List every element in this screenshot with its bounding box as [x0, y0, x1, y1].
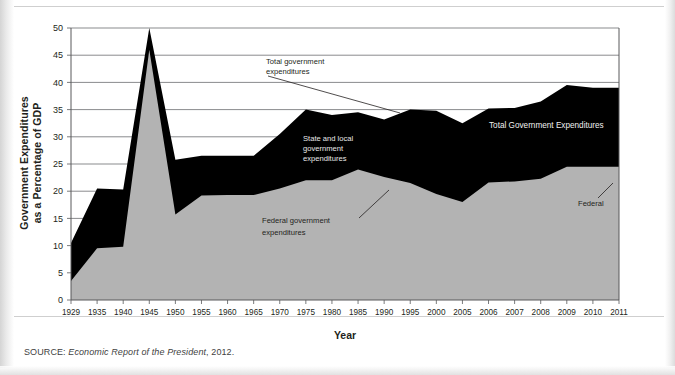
source-note: SOURCE: Economic Report of the President… [24, 347, 234, 357]
x-axis-tick-label: 2008 [532, 308, 551, 317]
y-axis-tick-label: 45 [53, 50, 63, 60]
x-axis-tick-label: 1960 [218, 308, 237, 317]
y-axis-tick-label: 20 [53, 186, 63, 196]
x-axis-tick-label: 2000 [427, 308, 446, 317]
y-axis-tick-label: 50 [53, 23, 63, 33]
x-axis-tick-label: 1970 [271, 308, 290, 317]
x-axis-tick-label: 2009 [558, 308, 577, 317]
annotation-federal-line1: Federal government [262, 216, 331, 225]
page-background: Government Expenditures as a Percentage … [0, 0, 675, 375]
annotation-total-line1: Total government [266, 57, 325, 66]
y-axis-tick-label: 15 [53, 214, 63, 224]
annotation-federal-line2: expenditures [262, 228, 306, 237]
source-title: Economic Report of the President [68, 347, 206, 357]
y-axis-tick-label: 0 [58, 295, 63, 305]
y-axis-tick-label: 35 [53, 105, 63, 115]
x-axis-tick-label: 1940 [114, 308, 133, 317]
y-axis-tick-label: 30 [53, 132, 63, 142]
x-axis-tick-label: 2011 [610, 308, 628, 317]
x-axis-tick-label: 1955 [192, 308, 211, 317]
annotation-state-local-line1: State and local [303, 134, 354, 143]
x-axis-tick-label: 1935 [88, 308, 107, 317]
x-axis-tick-label: 1995 [401, 308, 420, 317]
x-axis-title: Year [300, 329, 390, 341]
x-axis-tick-label: 1975 [297, 308, 316, 317]
x-axis-tick-label: 1965 [245, 308, 264, 317]
annotation-federal-inside: Federal [578, 199, 604, 208]
x-axis-tick-label: 2006 [479, 308, 498, 317]
x-axis-tick-label: 2010 [584, 308, 603, 317]
source-prefix: SOURCE: [24, 347, 68, 357]
y-axis-tick-label: 10 [53, 241, 63, 251]
y-axis-tick-label: 5 [58, 268, 63, 278]
y-axis-ticks: 05101520253035404550 [53, 23, 71, 305]
x-axis-tick-label: 1980 [323, 308, 342, 317]
source-suffix: , 2012. [206, 347, 234, 357]
annotation-state-local-line2: government [303, 144, 344, 153]
x-axis-tick-label: 1945 [140, 308, 159, 317]
annotation-total-inside: Total Government Expenditures [489, 121, 604, 130]
y-axis-tick-label: 25 [53, 159, 63, 169]
x-axis-tick-label: 2005 [453, 308, 472, 317]
figure-container: Government Expenditures as a Percentage … [0, 0, 675, 375]
x-axis-tick-label: 1990 [375, 308, 394, 317]
area-chart: 05101520253035404550 1929193519401945195… [0, 0, 675, 375]
x-axis-tick-label: 1985 [349, 308, 368, 317]
y-axis-tick-label: 40 [53, 78, 63, 88]
x-axis-tick-label: 2007 [506, 308, 525, 317]
x-axis-tick-label: 1929 [62, 308, 81, 317]
annotation-total-line2: expenditures [266, 67, 310, 76]
x-axis-tick-label: 1950 [166, 308, 185, 317]
x-axis-ticks: 1929193519401945195019551960196519701975… [62, 300, 628, 317]
annotation-state-local-line3: expenditures [303, 154, 347, 163]
